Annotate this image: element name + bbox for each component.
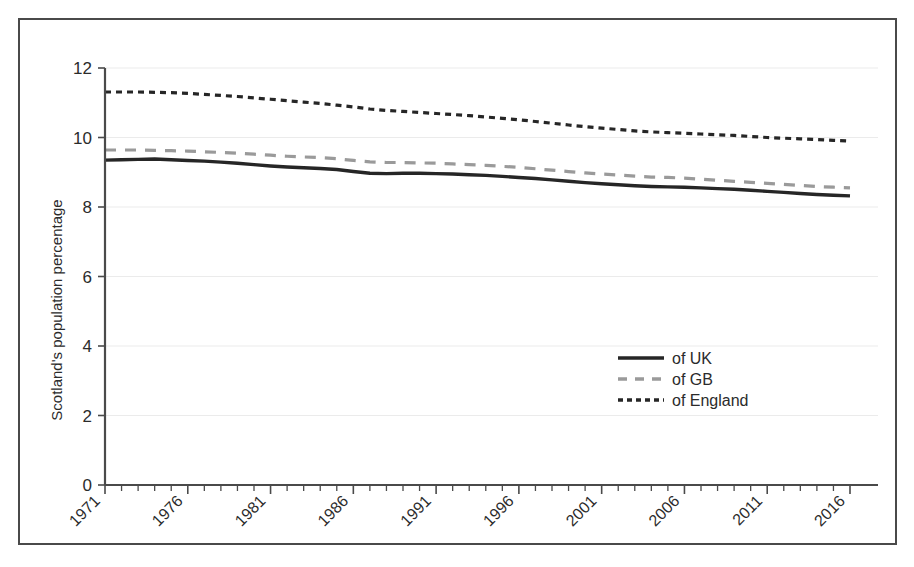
y-axis-title: Scotland's population percentage bbox=[48, 199, 65, 420]
y-tick-label-2: 2 bbox=[83, 407, 92, 426]
x-tick-label-2016: 2016 bbox=[811, 492, 848, 529]
chart-legend: of UK of GB of England bbox=[618, 350, 749, 409]
x-tick-label-2011: 2011 bbox=[729, 492, 765, 528]
x-tick-label-1986: 1986 bbox=[314, 492, 351, 529]
y-tick-label-4: 4 bbox=[83, 337, 92, 356]
series-line-of-uk bbox=[105, 159, 850, 196]
x-tick-label-2001: 2001 bbox=[563, 492, 600, 529]
legend-label-of-gb: of GB bbox=[672, 371, 713, 388]
legend-label-of-uk: of UK bbox=[672, 350, 712, 367]
line-chart: 024681012 Scotland's population percenta… bbox=[0, 0, 914, 567]
x-axis: 1971197619811986199119962001200620112016 bbox=[66, 485, 878, 529]
x-tick-marks bbox=[105, 485, 850, 494]
y-tick-label-12: 12 bbox=[73, 59, 92, 78]
legend-label-of-england: of England bbox=[672, 392, 749, 409]
x-tick-label-1981: 1981 bbox=[231, 492, 268, 529]
x-tick-labels: 1971197619811986199119962001200620112016 bbox=[66, 492, 848, 529]
x-tick-label-2006: 2006 bbox=[645, 492, 682, 529]
y-tick-labels: 024681012 bbox=[73, 59, 92, 495]
x-tick-label-1991: 1991 bbox=[397, 492, 434, 529]
x-tick-label-1976: 1976 bbox=[149, 492, 186, 529]
series-line-of-england bbox=[105, 92, 850, 141]
y-tick-label-8: 8 bbox=[83, 198, 92, 217]
plot-series bbox=[105, 92, 850, 196]
series-line-of-gb bbox=[105, 150, 850, 188]
x-tick-label-1971: 1971 bbox=[66, 492, 103, 529]
y-tick-label-10: 10 bbox=[73, 129, 92, 148]
y-axis: 024681012 Scotland's population percenta… bbox=[48, 59, 105, 495]
y-tick-label-6: 6 bbox=[83, 268, 92, 287]
gridlines bbox=[105, 68, 878, 416]
x-tick-label-1996: 1996 bbox=[480, 492, 517, 529]
figure-root: 024681012 Scotland's population percenta… bbox=[0, 0, 914, 567]
